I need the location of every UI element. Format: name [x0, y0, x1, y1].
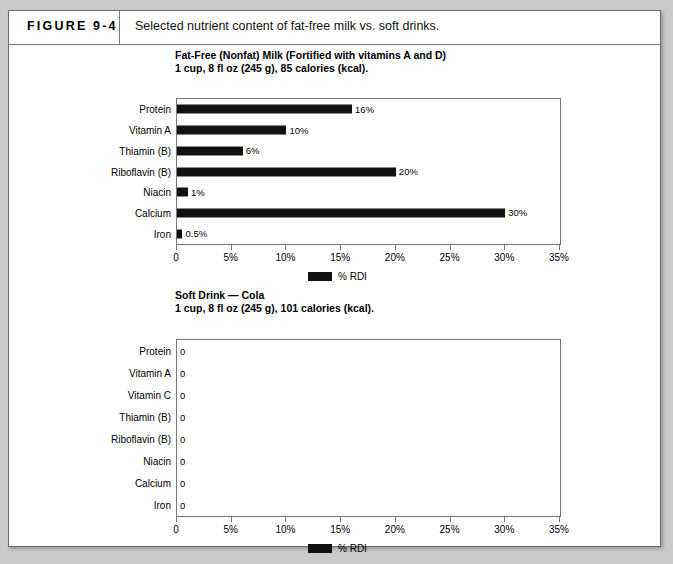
- category-label: Protein: [139, 104, 171, 115]
- category-label: Calcium: [135, 478, 171, 489]
- bar-row: 0: [177, 435, 560, 444]
- header-rule: [9, 44, 660, 45]
- x-tick-mark: [450, 245, 451, 250]
- x-tick-mark: [231, 517, 232, 522]
- x-tick-mark: [504, 517, 505, 522]
- figure-caption: Selected nutrient content of fat-free mi…: [135, 19, 439, 33]
- bar-row: 0: [177, 347, 560, 356]
- bar-row: 0: [177, 479, 560, 488]
- category-label: Riboflavin (B): [111, 166, 171, 177]
- x-tick-label: 30%: [494, 524, 514, 535]
- chart-soda-plot-area: 00000000: [176, 339, 561, 517]
- chart-soda-x-axis: 05%10%15%20%25%30%35%: [176, 517, 561, 539]
- x-tick-mark: [559, 245, 560, 250]
- bar: [177, 146, 243, 155]
- bar-value-label: 16%: [352, 104, 374, 115]
- bar-value-label: 1%: [188, 187, 205, 198]
- x-tick-mark: [231, 245, 232, 250]
- x-tick-label: 25%: [440, 524, 460, 535]
- bar-row: 0: [177, 413, 560, 422]
- x-tick-label: 10%: [275, 252, 295, 263]
- x-tick-label: 0: [173, 524, 179, 535]
- x-tick-mark: [450, 517, 451, 522]
- x-tick-mark: [285, 245, 286, 250]
- category-label: Thiamin (B): [119, 145, 171, 156]
- chart-soda-legend-label: % RDI: [338, 543, 367, 554]
- bar: [177, 208, 505, 217]
- x-tick-label: 30%: [494, 252, 514, 263]
- bar: [177, 105, 352, 114]
- category-label: Niacin: [143, 187, 171, 198]
- bar-value-label: 0: [180, 368, 185, 379]
- bar-value-label: 0: [180, 500, 185, 511]
- bar-value-label: 0.5%: [182, 228, 207, 239]
- chart-soda-bars: 00000000: [177, 340, 560, 516]
- bar-value-label: 0: [180, 390, 185, 401]
- x-tick-mark: [176, 245, 177, 250]
- x-tick-label: 35%: [549, 524, 569, 535]
- header-divider: [119, 11, 120, 44]
- bar-value-label: 10%: [286, 125, 308, 136]
- x-tick-mark: [504, 245, 505, 250]
- x-tick-mark: [395, 245, 396, 250]
- chart-milk-legend-label: % RDI: [338, 271, 367, 282]
- chart-milk-x-axis: 05%10%15%20%25%30%35%: [176, 245, 561, 267]
- category-label: Riboflavin (B): [111, 434, 171, 445]
- chart-milk-bars: 16%10%6%20%1%30%0.5%: [177, 99, 560, 244]
- chart-soda-legend: % RDI: [9, 543, 660, 557]
- bar-row: 16%: [177, 105, 560, 114]
- chart-milk-title: Fat-Free (Nonfat) Milk (Fortified with v…: [175, 49, 446, 62]
- category-label: Niacin: [143, 456, 171, 467]
- figure-header: FIGURE 9-4 Selected nutrient content of …: [9, 11, 660, 44]
- x-tick-label: 5%: [223, 524, 237, 535]
- category-label: Iron: [154, 500, 171, 511]
- bar-row: 20%: [177, 167, 560, 176]
- category-label: Vitamin A: [129, 125, 171, 136]
- bar-row: 6%: [177, 146, 560, 155]
- bar-row: 1%: [177, 188, 560, 197]
- bar-value-label: 6%: [243, 145, 260, 156]
- bar-value-label: 30%: [505, 207, 527, 218]
- bar-row: 0: [177, 457, 560, 466]
- legend-swatch-icon: [308, 272, 332, 281]
- category-label: Vitamin A: [129, 368, 171, 379]
- chart-soda-title: Soft Drink — Cola: [175, 289, 264, 302]
- bar-row: 0.5%: [177, 229, 560, 238]
- x-tick-label: 25%: [440, 252, 460, 263]
- x-tick-mark: [340, 245, 341, 250]
- x-tick-label: 0: [173, 252, 179, 263]
- x-tick-mark: [285, 517, 286, 522]
- bar-row: 0: [177, 369, 560, 378]
- bar-value-label: 20%: [396, 166, 418, 177]
- chart-milk-plot-area: 16%10%6%20%1%30%0.5%: [176, 98, 561, 245]
- x-tick-mark: [395, 517, 396, 522]
- bar-value-label: 0: [180, 434, 185, 445]
- category-label: Calcium: [135, 207, 171, 218]
- x-tick-label: 15%: [330, 524, 350, 535]
- bar-value-label: 0: [180, 346, 185, 357]
- x-tick-label: 15%: [330, 252, 350, 263]
- category-label: Iron: [154, 228, 171, 239]
- bar-row: 0: [177, 391, 560, 400]
- bar-value-label: 0: [180, 478, 185, 489]
- bar: [177, 167, 396, 176]
- x-tick-mark: [176, 517, 177, 522]
- bar: [177, 188, 188, 197]
- bar-row: 0: [177, 501, 560, 510]
- x-tick-mark: [340, 517, 341, 522]
- figure-number: FIGURE 9-4: [27, 19, 118, 33]
- bar-value-label: 0: [180, 456, 185, 467]
- x-tick-label: 5%: [223, 252, 237, 263]
- category-label: Thiamin (B): [119, 412, 171, 423]
- bar-row: 10%: [177, 126, 560, 135]
- x-tick-label: 35%: [549, 252, 569, 263]
- figure-page: FIGURE 9-4 Selected nutrient content of …: [8, 10, 661, 547]
- x-tick-label: 20%: [385, 252, 405, 263]
- chart-milk-subtitle: 1 cup, 8 fl oz (245 g), 85 calories (kca…: [175, 62, 368, 75]
- chart-soda-subtitle: 1 cup, 8 fl oz (245 g), 101 calories (kc…: [175, 302, 374, 315]
- x-tick-label: 20%: [385, 524, 405, 535]
- category-label: Vitamin C: [128, 390, 171, 401]
- bar: [177, 126, 286, 135]
- category-label: Protein: [139, 346, 171, 357]
- bar-value-label: 0: [180, 412, 185, 423]
